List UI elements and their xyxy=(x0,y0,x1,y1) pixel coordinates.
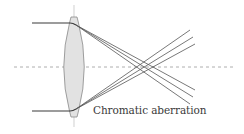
refracted-rays-top xyxy=(76,25,195,104)
converging-lens xyxy=(64,17,85,117)
chromatic-aberration-diagram: Chromatic aberration xyxy=(0,0,244,134)
refracted-rays-bottom xyxy=(76,30,195,109)
diagram-caption: Chromatic aberration xyxy=(93,104,206,116)
